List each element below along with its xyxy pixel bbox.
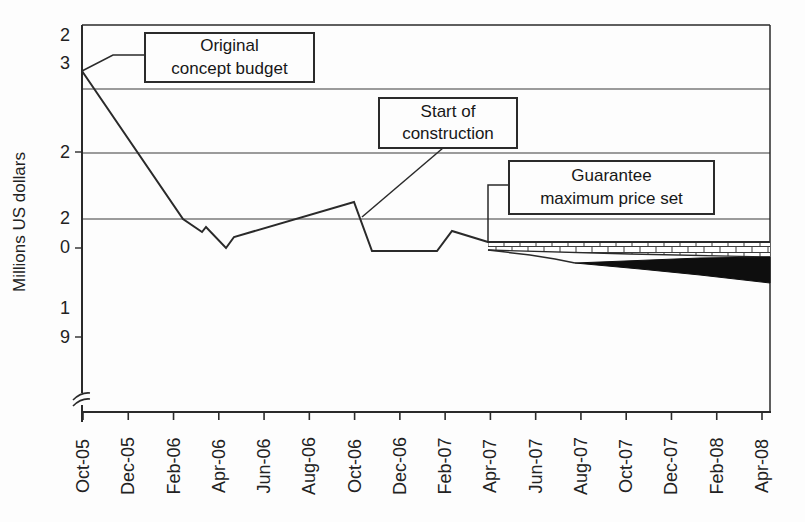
annotation-box-start-of-construction: Start ofconstruction bbox=[378, 97, 518, 149]
annotation-text-line: maximum price set bbox=[540, 188, 683, 210]
y-axis-title: Millions US dollars bbox=[9, 122, 31, 322]
x-tick-label-feb-08: Feb-08 bbox=[706, 416, 728, 516]
leader-line-0 bbox=[82, 55, 144, 71]
annotation-text-line: Guarantee bbox=[571, 165, 651, 187]
x-tick-label-oct-05: Oct-05 bbox=[72, 416, 94, 516]
x-tick-label-apr-06: Apr-06 bbox=[208, 416, 230, 516]
annotation-box-guarantee-maximum-price: Guaranteemaximum price set bbox=[508, 160, 715, 215]
x-tick-label-oct-07: Oct-07 bbox=[615, 416, 637, 516]
x-tick-label-jun-06: Jun-06 bbox=[253, 416, 275, 516]
x-tick-label-apr-07: Apr-07 bbox=[479, 416, 501, 516]
annotation-box-original-concept-budget: Originalconcept budget bbox=[144, 32, 315, 83]
x-tick-label-aug-06: Aug-06 bbox=[298, 416, 320, 516]
x-tick-label-dec-07: Dec-07 bbox=[660, 416, 682, 516]
y-tick-digit: 2 bbox=[44, 25, 70, 45]
y-tick-digit: 1 bbox=[44, 298, 70, 318]
annotation-text-line: concept budget bbox=[171, 58, 287, 80]
chart-figure: Millions US dollars 2322019 Oct-05Dec-05… bbox=[0, 0, 805, 522]
x-tick-label-oct-06: Oct-06 bbox=[344, 416, 366, 516]
y-tick-digit: 3 bbox=[44, 53, 70, 73]
x-tick-label-feb-06: Feb-06 bbox=[163, 416, 185, 516]
y-tick-digit: 9 bbox=[44, 327, 70, 347]
annotation-text-line: Start of bbox=[421, 101, 476, 123]
x-tick-label-feb-07: Feb-07 bbox=[434, 416, 456, 516]
y-tick-digit: 2 bbox=[44, 142, 70, 162]
x-tick-label-apr-08: Apr-08 bbox=[751, 416, 773, 516]
leader-line-2 bbox=[488, 185, 508, 243]
leader-line-1 bbox=[362, 148, 443, 217]
y-tick-digit: 2 bbox=[44, 208, 70, 228]
x-tick-label-aug-07: Aug-07 bbox=[570, 416, 592, 516]
black-wedge bbox=[575, 257, 770, 283]
annotation-text-line: Original bbox=[200, 35, 259, 57]
x-tick-label-dec-06: Dec-06 bbox=[389, 416, 411, 516]
x-tick-label-dec-05: Dec-05 bbox=[117, 416, 139, 516]
y-tick-digit: 0 bbox=[44, 237, 70, 257]
annotation-text-line: construction bbox=[402, 123, 494, 145]
x-tick-label-jun-07: Jun-07 bbox=[525, 416, 547, 516]
